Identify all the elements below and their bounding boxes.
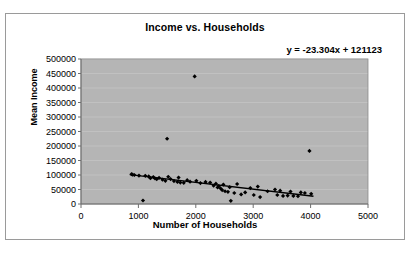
scatter-plot: 0500001000001500002000002500003000003500… xyxy=(6,14,406,241)
y-tick-label: 300000 xyxy=(46,112,76,122)
y-tick-label: 250000 xyxy=(46,127,76,137)
y-tick-label: 400000 xyxy=(46,83,76,93)
y-tick-label: 150000 xyxy=(46,156,76,166)
x-tick-label: 3000 xyxy=(243,211,263,221)
x-tick-label: 5000 xyxy=(358,211,378,221)
y-tick-label: 350000 xyxy=(46,98,76,108)
y-tick-label: 0 xyxy=(71,199,76,209)
y-tick-label: 200000 xyxy=(46,141,76,151)
x-tick-label: 0 xyxy=(78,211,83,221)
chart-frame: Income vs. Households y = -23.304x + 121… xyxy=(5,13,405,240)
x-tick-label: 1000 xyxy=(128,211,148,221)
y-tick-label: 500000 xyxy=(46,54,76,64)
y-tick-label: 100000 xyxy=(46,170,76,180)
y-tick-label: 50000 xyxy=(51,185,76,195)
x-tick-label: 2000 xyxy=(186,211,206,221)
y-tick-label: 450000 xyxy=(46,69,76,79)
x-tick-label: 4000 xyxy=(301,211,321,221)
